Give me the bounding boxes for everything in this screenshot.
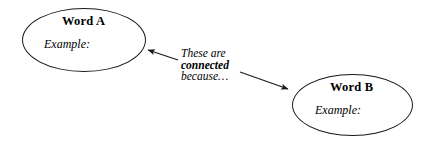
node-title-word-a: Word A <box>62 14 105 29</box>
connector-label-line-3: because… <box>181 71 257 83</box>
arrow-to-word-a-icon <box>148 50 178 60</box>
node-example-label-word-b: Example: <box>315 103 361 118</box>
diagram-canvas: Word A Example: Word B Example: These ar… <box>0 0 429 142</box>
node-title-word-b: Word B <box>330 80 373 95</box>
connector-label-line-1: These are <box>181 48 257 60</box>
connector-label: These are connected because… <box>181 48 257 83</box>
node-example-label-word-a: Example: <box>44 37 90 52</box>
